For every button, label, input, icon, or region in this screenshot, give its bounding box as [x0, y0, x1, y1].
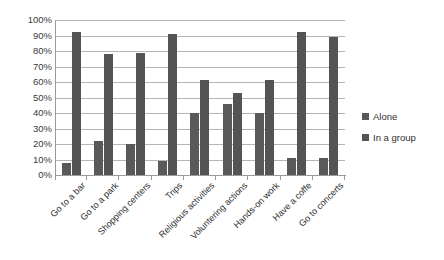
legend-item[interactable]: Alone	[362, 112, 442, 122]
bar	[265, 80, 274, 175]
bar-group	[216, 20, 248, 175]
y-axis-tick-label: 0%	[4, 170, 52, 180]
bar	[233, 93, 242, 175]
bar	[223, 104, 232, 175]
x-axis-tick-marks	[55, 175, 345, 180]
bar-group	[248, 20, 280, 175]
x-axis-tick-cell	[184, 175, 216, 180]
legend-item[interactable]: In a group	[362, 133, 442, 143]
x-axis-tick-mark	[55, 175, 56, 180]
x-axis-tick-cell	[55, 175, 87, 180]
bar-group	[281, 20, 313, 175]
x-axis-tick-cell	[313, 175, 345, 180]
bar	[287, 158, 296, 175]
bar	[255, 113, 264, 175]
bar-group	[87, 20, 119, 175]
y-axis-tick-label: 90%	[4, 31, 52, 41]
bar-group	[184, 20, 216, 175]
bar	[158, 161, 167, 175]
y-axis-tick-label: 10%	[4, 155, 52, 165]
x-axis-tick-cell	[281, 175, 313, 180]
x-axis-tick-cell	[216, 175, 248, 180]
y-axis-tick-label: 20%	[4, 139, 52, 149]
y-axis-tick-label: 30%	[4, 124, 52, 134]
bar	[104, 54, 113, 175]
legend-label: Alone	[373, 112, 397, 122]
bar	[168, 34, 177, 175]
x-axis-category-labels: Go to a barGo to a parkShopping centersT…	[55, 181, 345, 257]
legend-label: In a group	[373, 133, 416, 143]
bar-chart: 0%10%20%30%40%50%60%70%80%90%100% Go to …	[0, 0, 444, 260]
legend-swatch-icon	[362, 113, 369, 120]
y-axis-tick-labels: 0%10%20%30%40%50%60%70%80%90%100%	[0, 20, 52, 175]
legend-swatch-icon	[362, 134, 369, 141]
x-axis-category-label: Trips	[164, 181, 184, 201]
y-axis-tick-label: 50%	[4, 93, 52, 103]
y-axis-tick-label: 40%	[4, 108, 52, 118]
bar	[126, 144, 135, 175]
x-axis-tick-mark	[344, 175, 345, 180]
bar	[136, 53, 145, 175]
bar-group	[55, 20, 87, 175]
y-axis-tick-label: 60%	[4, 77, 52, 87]
bar	[62, 163, 71, 175]
y-axis-tick-label: 100%	[4, 15, 52, 25]
x-axis-tick-cell	[87, 175, 119, 180]
x-axis-tick-cell	[248, 175, 280, 180]
bar	[319, 158, 328, 175]
bar	[329, 37, 338, 175]
x-axis-tick-cell	[152, 175, 184, 180]
bars-layer	[55, 20, 345, 175]
bar-group	[152, 20, 184, 175]
x-axis-tick-cell	[119, 175, 151, 180]
chart-legend: AloneIn a group	[362, 112, 442, 153]
bar	[72, 32, 81, 175]
bar-group	[119, 20, 151, 175]
bar	[190, 113, 199, 175]
bar-group	[313, 20, 345, 175]
y-axis-tick-label: 70%	[4, 62, 52, 72]
y-axis-tick-label: 80%	[4, 46, 52, 56]
bar	[200, 80, 209, 175]
bar	[297, 32, 306, 175]
bar	[94, 141, 103, 175]
